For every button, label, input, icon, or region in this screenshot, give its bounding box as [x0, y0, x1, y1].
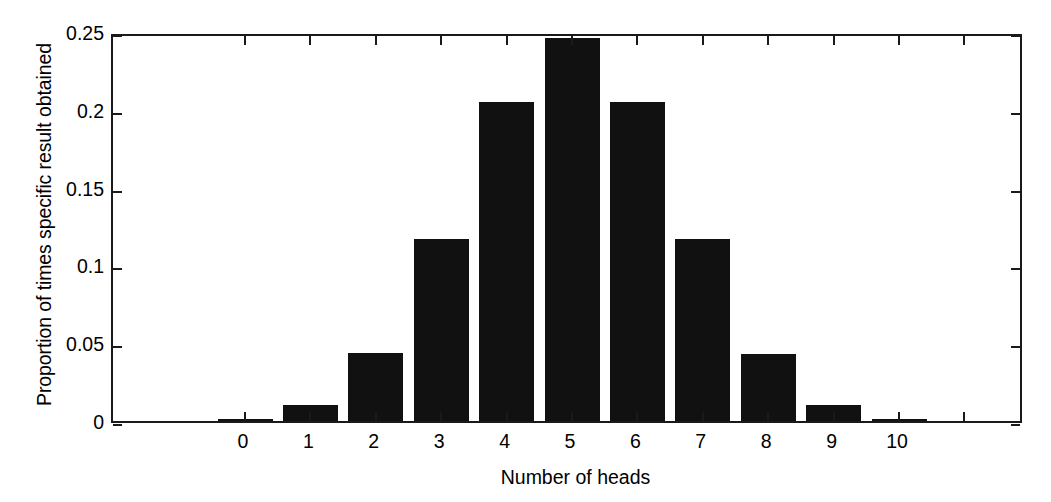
y-axis-tick [1011, 424, 1020, 426]
y-axis-tick [113, 113, 122, 115]
x-axis-tick [571, 36, 573, 45]
x-axis-tick [375, 412, 377, 421]
bar [610, 102, 665, 421]
x-axis-tick [506, 36, 508, 45]
x-axis-title: Number of heads [0, 466, 1051, 489]
x-axis-tick [898, 36, 900, 45]
x-axis-tick [309, 412, 311, 421]
y-axis-tick [113, 424, 122, 426]
bar [675, 239, 730, 421]
y-axis-tick [1011, 113, 1020, 115]
y-axis-tick [1011, 191, 1020, 193]
x-axis-tick-label: 8 [746, 430, 786, 452]
x-axis-tick [375, 36, 377, 45]
x-axis-tick [506, 412, 508, 421]
y-axis-tick-label: 0.05 [66, 335, 104, 355]
x-axis-tick [767, 36, 769, 45]
x-axis-tick-label: 4 [485, 430, 525, 452]
x-axis-tick [767, 412, 769, 421]
x-axis-tick-label: 6 [615, 430, 655, 452]
y-axis-tick [113, 346, 122, 348]
x-axis-title-text: Number of heads [501, 466, 651, 488]
y-axis-tick [113, 268, 122, 270]
y-axis-tick-labels: 00.050.10.150.20.25 [0, 0, 104, 502]
x-axis-tick [571, 412, 573, 421]
x-axis-tick [636, 36, 638, 45]
x-axis-tick-label: 3 [419, 430, 459, 452]
y-axis-tick [113, 191, 122, 193]
y-axis-tick-label: 0.1 [77, 257, 104, 277]
bar [741, 354, 796, 421]
x-axis-tick [702, 36, 704, 45]
y-axis-tick [113, 35, 122, 37]
x-axis-tick [898, 412, 900, 421]
y-axis-tick-label: 0 [93, 413, 104, 433]
x-axis-tick [636, 412, 638, 421]
y-axis-tick [1011, 35, 1020, 37]
x-axis-tick [244, 36, 246, 45]
plot-area [113, 36, 1020, 421]
x-axis-tick-label: 0 [223, 430, 263, 452]
x-axis-tick-label: 2 [354, 430, 394, 452]
y-axis-tick [1011, 268, 1020, 270]
x-axis-tick [440, 36, 442, 45]
x-axis-tick [963, 36, 965, 45]
x-axis-tick-label: 7 [681, 430, 721, 452]
x-axis-tick [833, 412, 835, 421]
x-axis-tick [244, 412, 246, 421]
y-axis-tick-label: 0.15 [66, 180, 104, 200]
y-axis-tick [1011, 346, 1020, 348]
bar [414, 239, 469, 421]
y-axis-tick-label: 0.2 [77, 102, 104, 122]
x-axis-tick [702, 412, 704, 421]
bar [545, 38, 600, 421]
y-axis-tick-label: 0.25 [66, 24, 104, 44]
x-axis-tick-label: 5 [550, 430, 590, 452]
x-axis-tick [963, 412, 965, 421]
bar [479, 102, 534, 421]
x-axis-tick [440, 412, 442, 421]
bar-chart-figure: Proportion of times specific result obta… [0, 0, 1051, 502]
bar [348, 353, 403, 421]
x-axis-tick [833, 36, 835, 45]
x-axis-tick-label: 9 [812, 430, 852, 452]
x-axis-tick-label: 10 [877, 430, 917, 452]
plot-axes-frame [111, 34, 1022, 423]
x-axis-tick [309, 36, 311, 45]
x-axis-tick-label: 1 [288, 430, 328, 452]
